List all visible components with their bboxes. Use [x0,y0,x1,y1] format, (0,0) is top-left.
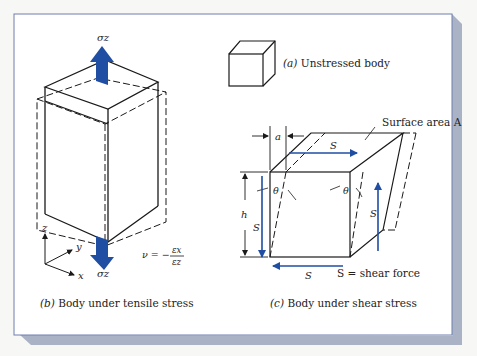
angle-theta-right: θ [343,185,349,196]
svg-text:ν = −: ν = − [142,249,170,260]
sigma-z-bottom-label: σz [97,268,110,279]
force-s-left-label: S [253,222,260,233]
svg-text:εz: εz [172,257,182,267]
surface-area-label: Surface area A [382,116,462,128]
panel-b-caption: (b) Body under tensile stress [40,297,194,309]
axis-y-label: y [75,241,82,252]
axis-z-label: z [41,222,48,233]
force-s-bottom-label: S [305,270,312,281]
force-s-top-label: S [330,140,337,151]
panel-a-caption: (a) Unstressed body [283,57,390,69]
angle-theta-left: θ [273,185,279,196]
svg-text:εx: εx [172,245,182,255]
height-h-label: h [241,209,247,220]
stress-diagram-figure: (a) Unstressed body σz σz [0,0,477,356]
offset-a-label: a [275,131,281,142]
shear-force-legend: S = shear force [337,267,420,279]
force-s-right-label: S [370,208,377,219]
sigma-z-top-label: σz [97,32,110,43]
axis-x-label: x [78,270,84,281]
panel-c-caption: (c) Body under shear stress [270,297,417,309]
